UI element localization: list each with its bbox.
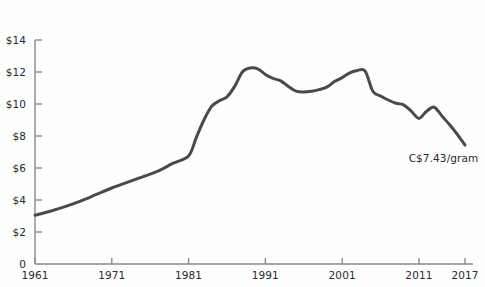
y-tick-label: $6 [0, 162, 26, 174]
y-tick-label: $4 [0, 194, 26, 206]
y-tick-label: $8 [0, 130, 26, 142]
value-annotation: C$7.43/gram [409, 152, 479, 164]
x-tick-label: 1991 [252, 269, 279, 281]
y-tick-label: $12 [0, 66, 26, 78]
y-tick-label: $2 [0, 226, 26, 238]
axis-ticks [35, 40, 465, 264]
x-tick-label: 2001 [329, 269, 356, 281]
data-line-0 [35, 68, 465, 215]
x-tick-label: 1971 [98, 269, 125, 281]
line-chart: $14$12$10$8$6$4$20 196119711981199120012… [0, 0, 485, 287]
chart-plot-area [0, 0, 485, 287]
y-tick-label: $10 [0, 98, 26, 110]
x-tick-label: 1981 [175, 269, 202, 281]
x-tick-label: 2017 [451, 269, 478, 281]
y-tick-label: $14 [0, 34, 26, 46]
data-series-group [35, 68, 465, 215]
x-tick-label: 2011 [405, 269, 432, 281]
x-tick-label: 1961 [21, 269, 48, 281]
axis-lines [35, 40, 473, 264]
